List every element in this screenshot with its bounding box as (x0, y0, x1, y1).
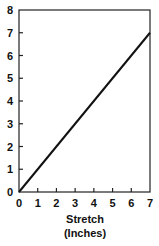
y-tick-label: 5 (7, 72, 13, 84)
data-line (19, 33, 150, 192)
y-tick-label: 8 (7, 4, 13, 16)
x-tick-label: 2 (53, 197, 59, 209)
x-tick-label: 4 (91, 197, 98, 209)
y-tick-label: 6 (7, 50, 13, 62)
x-tick-label: 3 (72, 197, 78, 209)
x-axis-label-line2: (Inches) (55, 227, 115, 239)
x-tick-label: 7 (147, 197, 153, 209)
y-tick-label: 4 (7, 95, 14, 107)
x-tick-label: 0 (16, 197, 22, 209)
y-tick-label: 2 (7, 141, 13, 153)
y-tick-label: 3 (7, 118, 13, 130)
y-tick-label: 7 (7, 27, 13, 39)
line-chart: 01234567801234567 (0, 0, 159, 246)
y-tick-label: 1 (7, 163, 13, 175)
y-tick-label: 0 (7, 186, 13, 198)
x-tick-label: 5 (110, 197, 116, 209)
x-tick-label: 6 (128, 197, 134, 209)
x-axis-label-line1: Stretch (55, 213, 115, 225)
x-tick-label: 1 (35, 197, 41, 209)
plot-frame (19, 10, 150, 192)
